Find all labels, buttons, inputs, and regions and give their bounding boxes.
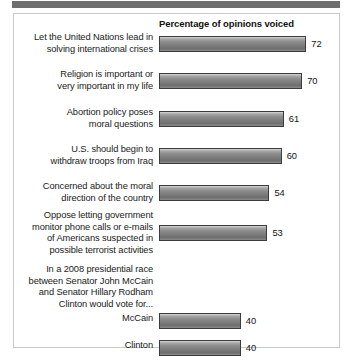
chart-bar-fill: [159, 111, 284, 127]
chart-bar: [159, 36, 306, 52]
chart-row: U.S. should begin towithdraw troops from…: [14, 144, 341, 167]
chart-bar-fill: [159, 73, 302, 89]
chart-bar-value: 72: [311, 39, 321, 49]
chart-row-label-line: In a 2008 presidential race: [0, 264, 153, 276]
chart-bar-value: 40: [246, 343, 256, 353]
chart-row: Let the United Nations lead insolving in…: [14, 32, 341, 55]
chart-row-label-line: and Senator Hillary Rodham: [0, 287, 153, 299]
chart-row: In a 2008 presidential racebetween Senat…: [14, 264, 341, 310]
chart-row-label-line: Let the United Nations lead in: [0, 32, 153, 44]
chart-row-label: Religion is important orvery important i…: [0, 69, 153, 92]
chart-bar-fill: [159, 225, 267, 241]
page-top-rule: [12, 1, 340, 8]
chart-row-label: Concerned about the moraldirection of th…: [0, 181, 153, 204]
chart-row-label-line: U.S. should begin to: [0, 144, 153, 156]
chart-row-label: Clinton: [0, 340, 153, 352]
chart-row-label-line: McCain: [0, 313, 153, 325]
chart-row: Concerned about the moraldirection of th…: [14, 181, 341, 204]
chart-panel: Percentage of opinions voiced Let the Un…: [13, 13, 340, 348]
chart-bar-value: 61: [289, 114, 299, 124]
chart-row: Oppose letting governmentmonitor phone c…: [14, 210, 341, 256]
chart-bar-value: 53: [272, 228, 282, 238]
chart-row-label-line: solving international crises: [0, 44, 153, 56]
chart-row-label-line: between Senator John McCain: [0, 276, 153, 288]
chart-bar-fill: [159, 340, 241, 356]
chart-row-label-line: Clinton: [0, 340, 153, 352]
chart-row-label-line: monitor phone calls or e-mails: [0, 222, 153, 234]
chart-row: Clinton40: [14, 340, 341, 352]
chart-bar: [159, 185, 269, 201]
chart-bar: [159, 111, 284, 127]
chart-row-label: In a 2008 presidential racebetween Senat…: [0, 264, 153, 310]
chart-row-label-line: Abortion policy poses: [0, 107, 153, 119]
chart-row-label-line: of Americans suspected in: [0, 233, 153, 245]
chart-row-label: U.S. should begin towithdraw troops from…: [0, 144, 153, 167]
chart-bar: [159, 148, 282, 164]
chart-row-label: Oppose letting governmentmonitor phone c…: [0, 210, 153, 256]
chart-row: Religion is important orvery important i…: [14, 69, 341, 92]
chart-bar-fill: [159, 313, 241, 329]
chart-row-label-line: very important in my life: [0, 81, 153, 93]
chart-bar-fill: [159, 185, 269, 201]
chart-bar: [159, 225, 267, 241]
chart-row-label: McCain: [0, 313, 153, 325]
chart-row-label-line: possible terrorist activities: [0, 245, 153, 257]
chart-bar: [159, 313, 241, 329]
chart-row-label-line: Religion is important or: [0, 69, 153, 81]
chart-bar-value: 70: [307, 76, 317, 86]
chart-row-label-line: Concerned about the moral: [0, 181, 153, 193]
chart-bar-fill: [159, 148, 282, 164]
chart-header-title: Percentage of opinions voiced: [159, 18, 294, 29]
chart-bar: [159, 340, 241, 356]
chart-bar-value: 60: [287, 151, 297, 161]
chart-bar-value: 54: [274, 188, 284, 198]
chart-bar: [159, 73, 302, 89]
chart-row-label-line: moral questions: [0, 119, 153, 131]
chart-row-label-line: withdraw troops from Iraq: [0, 156, 153, 168]
chart-bar-value: 40: [246, 316, 256, 326]
chart-bar-fill: [159, 36, 306, 52]
chart-row: McCain40: [14, 313, 341, 325]
chart-row-label-line: Clinton would vote for...: [0, 299, 153, 311]
chart-row-label-line: Oppose letting government: [0, 210, 153, 222]
chart-row-label: Abortion policy posesmoral questions: [0, 107, 153, 130]
chart-row-label: Let the United Nations lead insolving in…: [0, 32, 153, 55]
chart-row: Abortion policy posesmoral questions61: [14, 107, 341, 130]
chart-row-label-line: direction of the country: [0, 193, 153, 205]
